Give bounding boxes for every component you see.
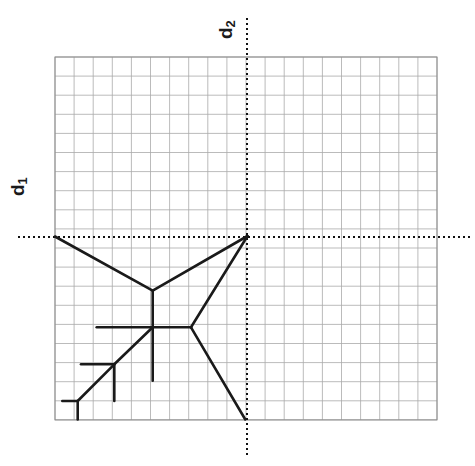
diagram-segment-edge-center-to-lowerleft [114, 327, 152, 364]
figure-canvas: d1 d2 [0, 0, 475, 466]
axis-label-d2-text: d [215, 27, 236, 39]
diagram-segment-edge-left-to-upper [55, 237, 153, 291]
axis-label-d2-subscript: 2 [223, 20, 238, 27]
axes-layer [18, 18, 470, 455]
diagram-segment-edge-right-to-bottom [191, 327, 245, 419]
plot-svg [0, 0, 475, 466]
axis-label-d1: d1 [8, 177, 27, 196]
diagram-segment-edge-right-to-origin [191, 236, 248, 327]
diagram-segment-edge-upper-to-origin [153, 236, 248, 291]
axis-label-d1-text: d [7, 184, 28, 196]
axis-label-d2: d2 [216, 20, 235, 39]
diagram-layer [55, 236, 248, 420]
diagram-segment-edge-lowerleft-to-bottomleft [78, 364, 115, 401]
axis-label-d1-subscript: 1 [15, 177, 30, 184]
